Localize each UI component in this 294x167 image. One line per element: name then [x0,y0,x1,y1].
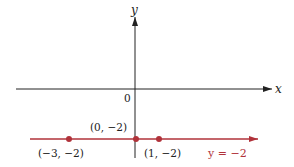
point-minus3-minus2 [66,136,72,142]
y-axis-label: y [130,3,138,17]
origin-label: 0 [124,92,131,104]
graph: x y 0 (−3, −2) (0, −2) (1, −2) y = −2 [0,0,294,167]
point-0-minus2 [133,136,139,142]
equation-label: y = −2 [207,147,247,160]
point-label-1: (1, −2) [144,147,181,159]
point-label-minus3: (−3, −2) [38,147,84,159]
x-axis-label: x [275,82,282,96]
point-label-0: (0, −2) [90,121,127,133]
point-1-minus2 [156,136,162,142]
